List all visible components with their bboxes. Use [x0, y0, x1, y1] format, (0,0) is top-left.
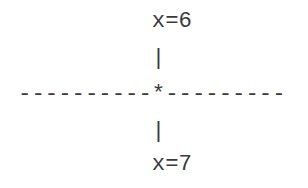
- top-label: x=6: [18, 9, 192, 33]
- bottom-vertical-connector: |: [18, 119, 165, 143]
- top-vertical-connector: |: [18, 46, 165, 70]
- horizontal-dashed-line-with-marker: ----------*---------: [18, 82, 286, 106]
- bottom-label: x=7: [18, 152, 192, 176]
